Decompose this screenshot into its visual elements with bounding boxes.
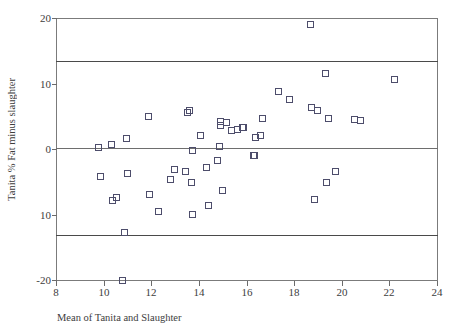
scatter-point [119,277,126,284]
y-tick-label: 0 [46,144,52,155]
scatter-point [275,88,282,95]
y-tick-label: 20 [40,13,51,24]
x-tick-label: 20 [337,287,348,298]
x-tick-label: 10 [99,287,110,298]
scatter-point [216,143,223,150]
scatter-point [332,168,339,175]
scatter-point [307,21,314,28]
plot-frame-top [56,18,438,19]
y-axis-title: Tanita % Fat minus slaughter [6,78,20,201]
scatter-point [186,107,193,114]
scatter-point [286,96,293,103]
y-tick-mark [52,84,57,85]
scatter-point [240,124,247,131]
scatter-point [189,147,196,154]
scatter-point [391,76,398,83]
y-tick-label: 10 [40,210,51,221]
x-tick-label: 8 [53,287,59,298]
scatter-point [311,196,318,203]
bland-altman-figure: Tanita % Fat minus slaughter 2010010-20 … [0,0,458,332]
scatter-point [259,115,266,122]
scatter-point [188,179,195,186]
y-tick-mark [52,18,57,19]
scatter-point [167,176,174,183]
scatter-point [314,107,321,114]
scatter-point [323,179,330,186]
x-tick-label: 24 [432,287,443,298]
scatter-point [357,117,364,124]
x-tick-label: 14 [194,287,205,298]
scatter-point [257,132,264,139]
scatter-point [182,168,189,175]
scatter-point [251,152,258,159]
x-tick-label: 22 [384,287,395,298]
scatter-point [95,144,102,151]
scatter-point [325,115,332,122]
scatter-point [113,194,120,201]
x-tick-label: 16 [242,287,253,298]
scatter-point [189,211,196,218]
reference-line-1 [56,148,438,149]
scatter-point [146,191,153,198]
y-tick-label: 10 [40,79,51,90]
scatter-point [322,70,329,77]
scatter-point [171,166,178,173]
scatter-point [145,113,152,120]
scatter-point [223,119,230,126]
scatter-point [214,157,221,164]
reference-line-0 [56,61,438,62]
scatter-point [203,164,210,171]
plot-area: 2010010-20 81012141618202224 [56,18,438,281]
figure-top-title [150,0,310,8]
plot-frame-right [437,18,438,281]
y-tick-label: -20 [36,275,51,286]
scatter-point [121,229,128,236]
scatter-point [124,170,131,177]
scatter-point [123,135,130,142]
x-axis-title: Mean of Tanita and Slaughter [57,312,181,324]
x-tick-label: 12 [146,287,157,298]
scatter-point [205,202,212,209]
scatter-point [219,187,226,194]
y-tick-mark [52,215,57,216]
reference-line-2 [56,235,438,236]
scatter-point [108,141,115,148]
scatter-point [155,208,162,215]
y-tick-mark [52,149,57,150]
x-tick-label: 18 [289,287,300,298]
scatter-point [197,132,204,139]
scatter-point [97,173,104,180]
